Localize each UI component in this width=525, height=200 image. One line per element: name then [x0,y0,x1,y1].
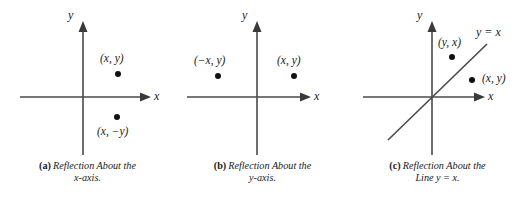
x-axis-label: x [314,90,319,102]
line-equation-label: y = x [476,26,501,38]
panel-b: y x (−x, y) (x, y) (b)Reflection About t… [175,0,350,200]
point-label-negx-y: (−x, y) [194,55,225,67]
point-label-x-negy: (x, −y) [97,126,128,138]
panel-b-caption: (b)Reflection About the y-axis. [175,160,350,185]
panel-a-tag: (a) [39,160,51,171]
y-axis-arrowhead-icon [79,21,88,32]
panel-c-caption-line2: Line y = x. [350,172,525,184]
y-axis-label: y [242,9,247,21]
panel-b-plot: y x (−x, y) (x, y) [175,0,350,160]
panel-c-plot: y x (y, x) (x, y) y = x [350,0,525,160]
point-marker-x-negy [114,114,120,120]
panel-a-axes-svg [0,0,175,160]
y-axis-label: y [68,9,73,21]
panel-b-tag: (b) [214,160,226,171]
point-label-y-x: (y, x) [438,37,461,49]
panel-b-caption-line2: y-axis. [175,172,350,184]
x-axis-label: x [154,90,159,102]
panel-b-axes-svg [175,0,350,160]
point-marker-x-y [469,77,475,83]
panel-a-caption-line2: x-axis. [0,172,175,184]
point-label-x-y: (x, y) [482,73,506,85]
y-axis-label: y [417,9,422,21]
panel-b-caption-line1: Reflection About the [228,160,311,171]
x-axis-label: x [488,90,493,102]
x-axis-arrowhead-icon [140,93,151,102]
point-label-x-y: (x, y) [277,55,301,67]
y-axis-arrowhead-icon [428,21,437,32]
x-axis-arrowhead-icon [474,93,485,102]
point-marker-x-y [115,71,121,77]
panel-a: y x (x, y) (x, −y) (a)Reflection About t… [0,0,175,200]
panel-a-plot: y x (x, y) (x, −y) [0,0,175,160]
panel-c: y x (y, x) (x, y) y = x (c)Reflection Ab… [350,0,525,200]
panel-c-tag: (c) [389,160,400,171]
point-marker-negx-y [215,73,221,79]
point-marker-y-x [449,54,455,60]
panel-a-caption: (a)Reflection About the x-axis. [0,160,175,185]
panel-c-caption-line1: Reflection About the [403,160,486,171]
line-y-equals-x [388,44,487,140]
panel-c-caption: (c)Reflection About the Line y = x. [350,160,525,185]
panel-a-caption-line1: Reflection About the [53,160,136,171]
point-label-x-y: (x, y) [100,53,124,65]
y-axis-arrowhead-icon [253,21,262,32]
point-marker-x-y [291,73,297,79]
reflections-figure: y x (x, y) (x, −y) (a)Reflection About t… [0,0,525,200]
x-axis-arrowhead-icon [300,93,311,102]
